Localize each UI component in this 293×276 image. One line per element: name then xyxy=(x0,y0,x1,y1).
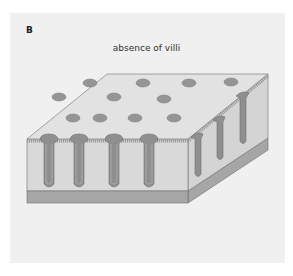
tissue-block-diagram xyxy=(0,0,293,276)
front-base-band xyxy=(27,191,188,203)
